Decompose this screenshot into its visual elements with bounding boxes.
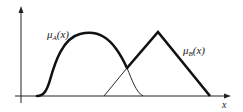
x-axis-label: x xyxy=(221,99,227,110)
y-axis-arrow-icon xyxy=(19,6,24,13)
mu-a-curve xyxy=(37,33,143,96)
mu-b-triangle xyxy=(104,32,210,96)
membership-function-diagram: x μA(x) μB(x) xyxy=(0,0,243,112)
x-axis: x xyxy=(15,94,231,111)
mu-b-label: μB(x) xyxy=(182,44,205,58)
y-axis xyxy=(19,6,24,103)
x-axis-arrow-icon xyxy=(224,94,231,99)
mu-a-label: μA(x) xyxy=(46,28,69,42)
